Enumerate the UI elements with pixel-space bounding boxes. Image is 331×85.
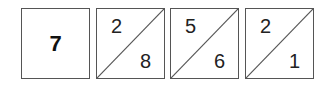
diagonal-divider-icon: [171, 9, 238, 78]
tile-value: 7: [22, 31, 89, 57]
tile-split: 2 1: [245, 8, 314, 79]
tile-bottom-value: 6: [214, 50, 225, 73]
tile-top-value: 2: [111, 15, 122, 38]
tile-split: 2 8: [96, 8, 165, 79]
tile-bottom-value: 1: [289, 50, 300, 73]
tile-split: 5 6: [170, 8, 239, 79]
diagonal-divider-icon: [97, 9, 164, 78]
diagonal-divider-icon: [246, 9, 313, 78]
tile-whole: 7: [21, 8, 90, 79]
tile-top-value: 5: [185, 15, 196, 38]
tile-top-value: 2: [260, 15, 271, 38]
tile-bottom-value: 8: [140, 50, 151, 73]
